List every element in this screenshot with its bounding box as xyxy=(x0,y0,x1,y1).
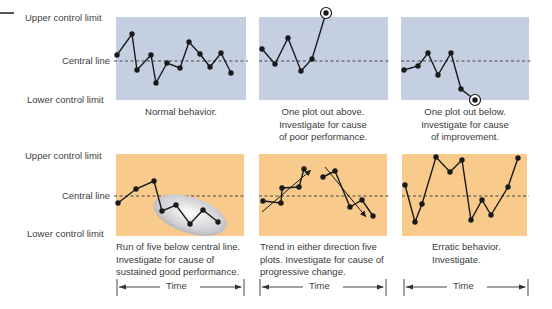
panel-one-below-bg xyxy=(401,17,529,100)
data-point xyxy=(505,184,510,189)
data-point xyxy=(296,184,301,189)
data-point xyxy=(301,166,306,171)
panel-erratic-bg xyxy=(402,154,527,236)
data-point xyxy=(159,208,164,213)
data-point xyxy=(370,213,375,218)
caption-run-of-five: Run of five below central line. Investig… xyxy=(116,241,240,279)
caption-trend: Trend in either direction five plots. In… xyxy=(260,241,384,279)
data-point xyxy=(347,204,352,209)
data-point xyxy=(309,56,314,61)
caption-one-above: One plot out above. Investigate for caus… xyxy=(255,106,391,144)
data-point xyxy=(134,67,139,72)
data-point xyxy=(207,64,212,69)
data-point xyxy=(479,197,484,202)
data-point xyxy=(435,72,440,77)
data-point xyxy=(433,154,438,159)
time-label-2: Time xyxy=(306,280,333,291)
lower-control-limit-label-1: Lower control limit xyxy=(27,94,104,105)
caption-normal: Normal behavior. xyxy=(116,106,246,119)
data-point xyxy=(187,221,192,226)
data-point xyxy=(151,178,156,183)
data-point xyxy=(468,217,473,222)
data-point xyxy=(278,200,283,205)
data-point xyxy=(215,219,220,224)
data-point xyxy=(114,52,119,57)
data-point xyxy=(359,197,364,202)
data-point xyxy=(186,39,191,44)
data-point xyxy=(115,200,120,205)
caption-erratic: Erratic behavior. Investigate. xyxy=(432,241,501,266)
upper-control-limit-label-1: Upper control limit xyxy=(25,12,102,23)
data-point xyxy=(415,63,420,68)
data-point xyxy=(228,70,233,75)
data-point xyxy=(332,168,337,173)
data-point xyxy=(285,35,290,40)
central-line-label-1: Central line xyxy=(2,55,110,66)
data-point xyxy=(323,10,328,15)
lower-control-limit-label-2: Lower control limit xyxy=(27,228,104,239)
data-point xyxy=(218,50,223,55)
data-point xyxy=(447,169,452,174)
data-point xyxy=(177,65,182,70)
data-point xyxy=(260,198,265,203)
data-point xyxy=(402,182,407,187)
data-point xyxy=(200,207,205,212)
data-point xyxy=(459,157,464,162)
data-point xyxy=(259,46,264,51)
data-point xyxy=(412,219,417,224)
data-point xyxy=(148,52,153,57)
data-point xyxy=(425,50,430,55)
time-label-1: Time xyxy=(163,280,190,291)
data-point xyxy=(320,174,325,179)
data-point xyxy=(488,212,493,217)
data-point xyxy=(515,155,520,160)
data-point xyxy=(401,67,406,72)
panel-trend-bg xyxy=(259,154,387,236)
data-point xyxy=(279,185,284,190)
data-point xyxy=(153,80,158,85)
data-point xyxy=(164,60,169,65)
data-point xyxy=(272,61,277,66)
data-point xyxy=(298,68,303,73)
data-point xyxy=(472,97,477,102)
upper-control-limit-label-2: Upper control limit xyxy=(25,150,102,161)
data-point xyxy=(419,201,424,206)
data-point xyxy=(197,51,202,56)
data-point xyxy=(129,31,134,36)
data-point xyxy=(448,50,453,55)
data-point xyxy=(458,86,463,91)
caption-one-below: One plot out below. Investigate for caus… xyxy=(398,106,532,144)
data-point xyxy=(173,202,178,207)
data-point xyxy=(133,186,138,191)
central-line-label-2: Central line xyxy=(2,190,110,201)
time-label-3: Time xyxy=(450,280,477,291)
